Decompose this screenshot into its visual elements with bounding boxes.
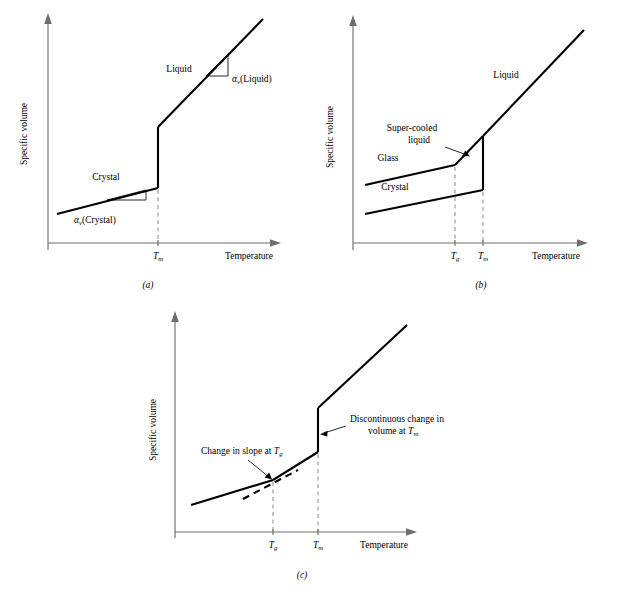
x-axis-label: Temperature xyxy=(360,540,408,550)
y-axis-arrowhead xyxy=(171,311,179,322)
panel-caption-b: (b) xyxy=(475,280,486,291)
panel-a: Liquid Crystal αv(Liquid) αv(Crystal) Tm… xyxy=(0,0,310,300)
glass-branch xyxy=(365,165,455,185)
below-tg-branch xyxy=(191,480,273,505)
panel-c-chart: Change in slope at Tg Discontinuous chan… xyxy=(130,300,490,592)
crystal-branch xyxy=(57,188,158,214)
alpha-liquid-label: αv(Liquid) xyxy=(232,74,272,85)
supercooled-liquid-label-line1: Super-cooled xyxy=(387,123,438,133)
liquid-branch xyxy=(483,30,584,136)
tick-label-tm: Tm xyxy=(478,251,488,262)
x-axis-arrowhead xyxy=(406,528,417,536)
tangent-dashed-line xyxy=(243,470,298,499)
y-axis-arrowhead xyxy=(349,15,357,26)
liquid-label: Liquid xyxy=(166,64,192,74)
liquid-slope-triangle xyxy=(206,54,228,76)
panel-a-chart: Liquid Crystal αv(Liquid) αv(Crystal) Tm… xyxy=(0,0,310,300)
alpha-crystal-label: αv(Crystal) xyxy=(74,215,116,226)
change-in-slope-leader-arrowhead xyxy=(265,472,272,479)
change-in-slope-annotation: Change in slope at Tg xyxy=(201,446,283,457)
panel-b: Liquid Super-cooled liquid Glass Crystal… xyxy=(307,0,617,300)
panel-c: Change in slope at Tg Discontinuous chan… xyxy=(130,300,490,592)
liquid-branch xyxy=(318,325,407,408)
panel-caption-a: (a) xyxy=(142,280,153,291)
y-axis-label: Specific volume xyxy=(325,106,335,168)
discontinuous-change-annotation-line2: volume at Tm xyxy=(368,426,418,437)
supercooled-liquid-branch xyxy=(455,136,483,165)
tick-label-tg: Tg xyxy=(269,540,278,551)
discontinuous-change-annotation-line1: Discontinuous change in xyxy=(350,414,444,424)
crystal-label: Crystal xyxy=(381,182,409,192)
supercooled-liquid-label-line2: liquid xyxy=(408,135,430,145)
tick-label-tm: Tm xyxy=(313,540,323,551)
change-in-slope-leader-line xyxy=(248,460,269,477)
discontinuous-change-leader-arrowhead xyxy=(320,431,328,437)
x-axis-arrowhead xyxy=(577,239,588,247)
y-axis-label: Specific volume xyxy=(19,103,29,165)
y-axis-label: Specific volume xyxy=(148,399,158,461)
y-axis-arrowhead xyxy=(44,13,52,24)
liquid-label: Liquid xyxy=(493,70,519,80)
crystal-label: Crystal xyxy=(92,172,120,182)
crystal-slope-triangle xyxy=(107,190,146,200)
x-axis-arrowhead xyxy=(270,239,281,247)
glass-label: Glass xyxy=(377,153,398,163)
x-axis-label: Temperature xyxy=(532,251,580,261)
x-axis-label: Temperature xyxy=(225,251,273,261)
panel-caption-c: (c) xyxy=(297,570,308,581)
crystal-branch xyxy=(365,190,483,214)
tick-label-tg: Tg xyxy=(451,251,460,262)
panel-b-chart: Liquid Super-cooled liquid Glass Crystal… xyxy=(307,0,617,300)
tick-label-tm: Tm xyxy=(153,251,163,262)
